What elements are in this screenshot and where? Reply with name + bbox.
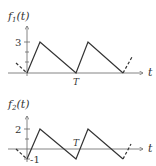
waveform-diagram: f1(t) t 3 T f2(t) t 2 -1 T — [0, 0, 156, 166]
tick-label-neg1: -1 — [30, 154, 40, 165]
ylabel-f1: f1(t) — [7, 10, 30, 24]
tick-label-3: 3 — [15, 37, 21, 48]
period-label-f1: T — [73, 77, 80, 87]
graph-f1: f1(t) t 3 T — [7, 10, 153, 87]
period-label-f2: T — [73, 138, 80, 148]
waveform-f1 — [27, 42, 123, 73]
ylabel-f2: f2(t) — [7, 98, 30, 112]
xlabel-f1: t — [148, 66, 153, 79]
tick-label-2: 2 — [15, 124, 21, 135]
xlabel-f2: t — [148, 142, 153, 155]
graph-f2: f2(t) t 2 -1 T — [7, 98, 153, 165]
